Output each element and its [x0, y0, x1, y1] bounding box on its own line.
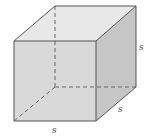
cube-diagram: s s s: [0, 0, 145, 140]
depth-label: s: [118, 104, 123, 114]
height-label: s: [139, 42, 144, 52]
front-face: [14, 41, 96, 121]
width-label: s: [52, 125, 57, 135]
